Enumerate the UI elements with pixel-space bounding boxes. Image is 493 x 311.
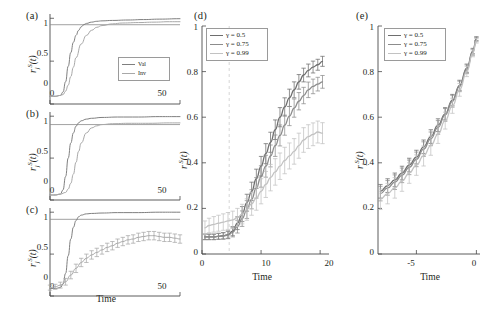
legend-gamma-d-swatch-2 (210, 53, 223, 54)
errorbar-1-21 (301, 87, 305, 103)
panel-e-legend: γ = 0.5γ = 0.75γ = 0.99 (384, 28, 446, 61)
legend-val-inv-label-1: Inv (138, 69, 146, 78)
legend-gamma-d-label-0: γ = 0.5 (226, 31, 245, 40)
legend-gamma-e-swatch-2 (388, 53, 401, 54)
series-line-0 (50, 117, 180, 195)
errorbar-0-16 (278, 108, 282, 127)
panel-a-ytick-05: 0.5 (27, 48, 48, 58)
panel-d-ytick-08: 0.8 (178, 67, 198, 77)
legend-gamma-d-row-2: γ = 0.99 (210, 49, 264, 58)
panel-d-ytick-0: 0 (184, 247, 198, 257)
legend-gamma-e-row-1: γ = 0.75 (388, 40, 442, 49)
figure-root: (a) rjS(t) 1 0.5 0 0 50 ValInv (b) rjS(t… (0, 0, 493, 311)
panel-e-xtick-neg5: -5 (402, 258, 420, 268)
legend-val-inv-row-0: Val (122, 60, 166, 69)
panel-e-ytick-08: 0.8 (354, 67, 374, 77)
panel-d-xtick-20: 20 (320, 258, 338, 268)
errorbar-2-20 (297, 133, 301, 158)
series-line-1 (50, 123, 180, 195)
legend-gamma-e-swatch-1 (388, 44, 401, 45)
panel-d-xtick-0: 0 (195, 258, 209, 268)
panel-e-xtick-0: 0 (467, 258, 481, 268)
errorbar-2-18 (287, 143, 291, 169)
series-line-1 (380, 40, 476, 194)
errorbar-1-5 (74, 264, 78, 272)
errorbar-1-17 (282, 115, 286, 135)
panel-b: (b) rjS(t) 1 0.5 0 0 50 (0, 100, 180, 200)
panel-a-ytick-1: 1 (34, 18, 48, 28)
errorbar-0-21 (301, 68, 305, 82)
legend-gamma-d-row-1: γ = 0.75 (210, 40, 264, 49)
errorbar-1-4 (69, 271, 73, 279)
panel-e-ytick-02: 0.2 (354, 202, 374, 212)
panel-d: (d) rjS(t) 1 0.8 0.6 0.4 0.2 0 0 10 20 T… (178, 0, 348, 311)
errorbar-1-18 (287, 106, 291, 125)
legend-gamma-d-swatch-0 (210, 35, 223, 36)
legend-gamma-d-label-2: γ = 0.99 (226, 49, 249, 58)
panel-b-ytick-1: 1 (34, 116, 48, 126)
legend-gamma-d-label-1: γ = 0.75 (226, 40, 249, 49)
errorbar-2-9 (245, 199, 249, 220)
panel-e-ytick-06: 0.6 (354, 112, 374, 122)
errorbar-2-15 (273, 159, 277, 185)
legend-gamma-e-label-2: γ = 0.99 (404, 49, 427, 58)
series-line-0 (50, 212, 180, 288)
errorbar-2-16 (278, 153, 282, 179)
panel-d-ytick-04: 0.4 (178, 157, 198, 167)
legend-gamma-e-label-1: γ = 0.75 (404, 40, 427, 49)
panel-e: (e) rjS(t) 1 0.8 0.6 0.4 0.2 0 -5 0 Time… (348, 0, 493, 311)
legend-val-inv-swatch-0 (122, 64, 135, 65)
errorbar-0-20 (297, 75, 301, 90)
panel-a-ytick-0: 0 (34, 78, 48, 88)
errorbar-1-15 (273, 135, 277, 156)
panel-e-xlabel: Time (400, 272, 460, 282)
errorbar-1-20 (297, 93, 301, 110)
panel-d-legend: γ = 0.5γ = 0.75γ = 0.99 (206, 28, 268, 61)
legend-gamma-e-label-0: γ = 0.5 (404, 31, 423, 40)
legend-gamma-e-row-0: γ = 0.5 (388, 31, 442, 40)
panel-e-letter: (e) (356, 10, 368, 21)
panel-c-ytick-1: 1 (34, 212, 48, 222)
errorbar-1-6 (79, 258, 83, 266)
errorbar-2-14 (268, 164, 272, 190)
legend-gamma-e-row-2: γ = 0.99 (388, 49, 442, 58)
legend-gamma-d-row-0: γ = 0.5 (210, 31, 264, 40)
panel-a: (a) rjS(t) 1 0.5 0 0 50 ValInv (0, 0, 180, 105)
legend-gamma-e-swatch-0 (388, 35, 401, 36)
panel-d-letter: (d) (194, 10, 207, 21)
panel-e-ytick-04: 0.4 (354, 157, 374, 167)
panel-c: (c) rjS(t) 1 0.5 0 0 50 Time (0, 196, 180, 311)
panel-b-ytick-05: 0.5 (27, 146, 48, 156)
errorbar-0-19 (292, 82, 296, 98)
legend-val-inv-swatch-1 (122, 73, 135, 74)
panel-d-ytick-06: 0.6 (178, 112, 198, 122)
panel-c-plot (50, 208, 180, 296)
errorbar-2-17 (282, 147, 286, 173)
legend-val-inv-label-0: Val (138, 60, 146, 69)
panel-a-legend: ValInv (118, 57, 170, 81)
errorbar-2-13 (264, 171, 268, 197)
panel-e-ytick-0: 0 (360, 247, 374, 257)
series-line-0 (380, 39, 476, 192)
panel-d-xtick-10: 10 (257, 258, 275, 268)
series-line-2 (205, 132, 323, 228)
errorbar-0-17 (282, 98, 286, 116)
errorbar-1-19 (292, 99, 296, 117)
errorbar-2-19 (292, 139, 296, 165)
panel-d-xlabel: Time (232, 272, 292, 282)
errorbar-2-12 (259, 179, 263, 204)
legend-gamma-d-swatch-1 (210, 44, 223, 45)
errorbar-1-14 (268, 145, 272, 167)
panel-d-ytick-02: 0.2 (178, 202, 198, 212)
errorbar-1-16 (278, 125, 282, 146)
panel-b-plot (50, 112, 180, 200)
errorbar-0-18 (287, 89, 291, 106)
legend-val-inv-row-1: Inv (122, 69, 166, 78)
panel-c-ytick-05: 0.5 (27, 242, 48, 252)
panel-e-ytick-1: 1 (360, 22, 374, 32)
panel-d-ytick-1: 1 (184, 22, 198, 32)
